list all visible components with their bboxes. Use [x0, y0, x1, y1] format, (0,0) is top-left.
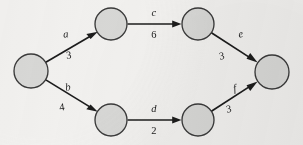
edge-c-label: c	[152, 7, 157, 18]
edge-b-weight: 4	[58, 101, 65, 113]
edge-d-arrowhead	[172, 117, 181, 124]
edge-a-weight: 3	[66, 49, 73, 61]
edge-d-weight: 2	[151, 125, 156, 136]
edge-c-arrowhead	[172, 21, 181, 28]
edge-c: c 6	[128, 7, 182, 40]
node-top-left-circle[interactable]	[95, 8, 127, 40]
edge-d: d 2	[128, 103, 182, 136]
edge-d-label: d	[151, 103, 157, 114]
edge-a: a 3	[46, 28, 98, 62]
edge-f: f 3	[211, 81, 257, 114]
edge-e-label: e	[237, 28, 244, 40]
edge-e-line	[211, 33, 251, 59]
edge-e-arrowhead	[247, 53, 258, 63]
node-bottom-left[interactable]	[95, 104, 127, 136]
node-top-right[interactable]	[182, 8, 214, 40]
node-bottom-right-circle[interactable]	[182, 104, 214, 136]
edge-b-label: b	[64, 81, 71, 93]
edge-b: b 4	[46, 80, 98, 113]
edge-f-label: f	[232, 82, 239, 94]
node-bottom-right[interactable]	[182, 104, 214, 136]
node-start-circle[interactable]	[14, 54, 48, 88]
edge-e-weight: 3	[218, 50, 225, 62]
node-end[interactable]	[255, 55, 289, 89]
edge-f-arrowhead	[247, 81, 258, 91]
edge-f-weight: 3	[225, 103, 232, 115]
edge-c-weight: 6	[151, 29, 156, 40]
graph-diagram: a 3 b 4 c 6 d 2 e 3	[0, 0, 303, 145]
edge-f-line	[211, 85, 251, 111]
node-top-left[interactable]	[95, 8, 127, 40]
node-start[interactable]	[14, 54, 48, 88]
edge-e: e 3	[211, 28, 257, 63]
edge-a-label: a	[62, 28, 69, 40]
node-end-circle[interactable]	[255, 55, 289, 89]
node-top-right-circle[interactable]	[182, 8, 214, 40]
node-bottom-left-circle[interactable]	[95, 104, 127, 136]
